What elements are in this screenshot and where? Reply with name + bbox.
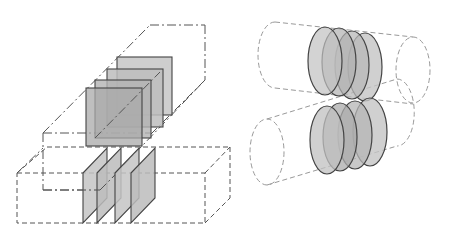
right-panel — [250, 22, 430, 185]
upper-discs — [308, 27, 382, 101]
thin-plates — [43, 148, 155, 223]
square-plate-1 — [86, 88, 142, 146]
square-plates — [86, 57, 172, 146]
left-panel — [17, 25, 230, 223]
lower-disc-1 — [310, 106, 344, 174]
upper-disc-1 — [308, 27, 342, 95]
diagram-canvas — [0, 0, 451, 236]
lower-discs — [310, 98, 387, 174]
